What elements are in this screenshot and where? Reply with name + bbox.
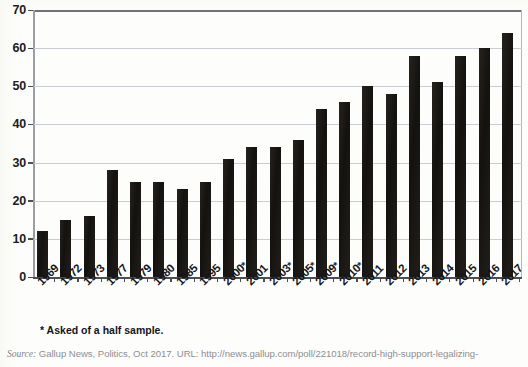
bar bbox=[409, 56, 420, 277]
footnote: * Asked of a half sample. bbox=[40, 324, 163, 336]
y-axis-tick-mark bbox=[28, 86, 33, 88]
bar bbox=[432, 82, 443, 277]
source-label: Source: bbox=[7, 348, 36, 359]
bar bbox=[270, 147, 281, 277]
y-axis-tick-mark bbox=[28, 162, 33, 164]
y-axis-tick-label: 20 bbox=[12, 194, 26, 208]
x-axis-labels: 196919721973197719791980198519952000*200… bbox=[33, 279, 522, 324]
bar-series bbox=[34, 10, 522, 277]
figure-page: 706050403020100 196919721973197719791980… bbox=[0, 0, 528, 367]
y-axis-tick-label: 50 bbox=[12, 79, 26, 93]
bar bbox=[316, 109, 327, 277]
y-axis-tick-mark bbox=[28, 238, 33, 240]
bar bbox=[479, 48, 490, 277]
bar bbox=[339, 102, 350, 277]
chart-plot-area: 706050403020100 bbox=[33, 10, 522, 277]
bar bbox=[502, 33, 513, 277]
y-axis-tick-label: 0 bbox=[19, 270, 26, 284]
y-axis-tick-mark bbox=[28, 124, 33, 126]
bar bbox=[130, 182, 141, 277]
bar bbox=[293, 140, 304, 277]
y-axis-tick-mark bbox=[28, 10, 33, 12]
y-axis-tick-mark bbox=[28, 48, 33, 50]
bar bbox=[107, 170, 118, 277]
y-axis-tick-label: 70 bbox=[12, 3, 26, 17]
bar bbox=[223, 159, 234, 277]
bar bbox=[246, 147, 257, 277]
y-axis-tick-mark bbox=[28, 200, 33, 202]
bar bbox=[455, 56, 466, 277]
bar bbox=[177, 189, 188, 277]
bar bbox=[362, 86, 373, 277]
source-text: Gallup News, Politics, Oct 2017. URL: ht… bbox=[36, 348, 478, 359]
source-line: Source: Gallup News, Politics, Oct 2017.… bbox=[7, 348, 478, 359]
y-axis-tick-label: 40 bbox=[12, 117, 26, 131]
bar bbox=[386, 94, 397, 277]
bar bbox=[153, 182, 164, 277]
y-axis-tick-label: 60 bbox=[12, 41, 26, 55]
bar bbox=[200, 182, 211, 277]
y-axis-tick-label: 30 bbox=[12, 156, 26, 170]
y-axis-tick-label: 10 bbox=[12, 232, 26, 246]
